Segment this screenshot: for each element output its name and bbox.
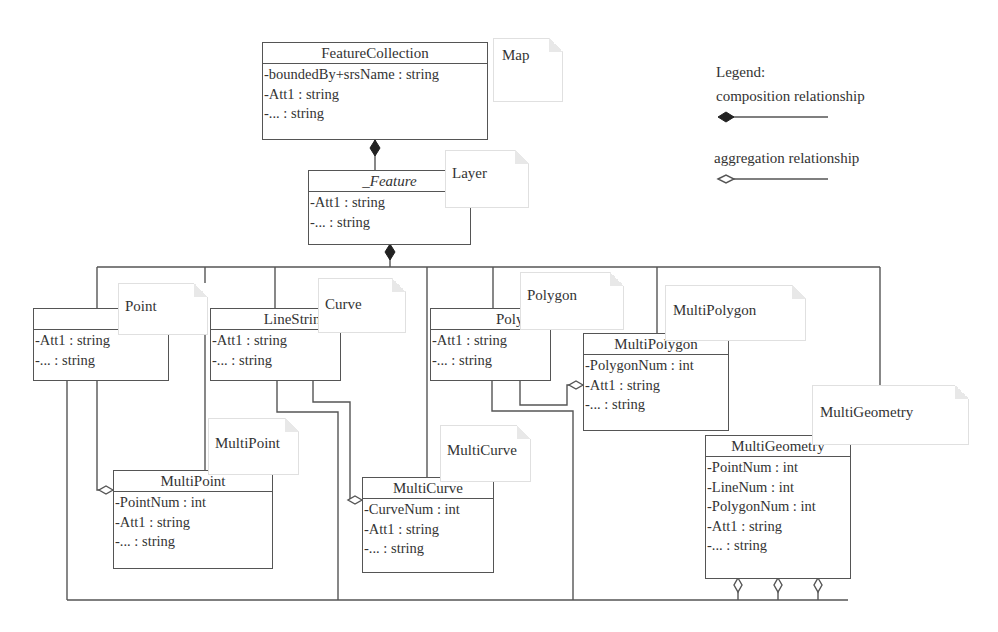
note-fold-icon [955, 385, 969, 399]
class-multicurve[interactable]: MultiCurve -CurveNum : int -Att1 : strin… [362, 477, 494, 573]
class-attribute: -... : string [212, 351, 340, 371]
class-attribute: -PolygonNum : int [585, 356, 728, 376]
note-text: MultiGeometry [820, 404, 913, 420]
class-attribute: -PointNum : int [707, 458, 850, 478]
class-multipolygon[interactable]: MultiPolygon -PolygonNum : int -Att1 : s… [583, 333, 729, 431]
class-attribute: -Att1 : string [115, 513, 272, 533]
note-text: Map [502, 47, 530, 63]
note-text: MultiPolygon [673, 302, 756, 318]
note-fold-icon [549, 38, 563, 52]
class-attribute: -... : string [432, 351, 550, 371]
note-multipolygon: MultiPolygon [665, 285, 806, 341]
note-layer: Layer [445, 150, 529, 208]
note-fold-icon [792, 285, 806, 299]
class-attribute: -boundedBy+srsName : string [264, 65, 487, 85]
note-fold-icon [515, 150, 529, 164]
class-attribute: -... : string [364, 539, 493, 559]
note-fold-icon [194, 283, 208, 297]
class-attribute: -Att1 : string [432, 331, 550, 351]
class-attribute: -Att1 : string [364, 520, 493, 540]
class-attribute: -... : string [310, 213, 470, 233]
note-multicurve: MultiCurve [440, 425, 531, 482]
class-attribute: -... : string [707, 536, 850, 556]
class-attribute: -... : string [585, 395, 728, 415]
note-text: Point [125, 298, 157, 314]
note-text: Polygon [527, 287, 577, 303]
note-polygon: Polygon [520, 272, 624, 330]
note-fold-icon [610, 272, 624, 286]
note-multigeometry: MultiGeometry [812, 385, 969, 445]
class-feature-collection[interactable]: FeatureCollection -boundedBy+srsName : s… [262, 42, 488, 140]
class-attribute: -PolygonNum : int [707, 497, 850, 517]
note-text: Layer [452, 165, 487, 181]
class-attribute: -Att1 : string [264, 85, 487, 105]
class-attribute: -Att1 : string [707, 517, 850, 537]
class-attribute: -... : string [115, 532, 272, 552]
class-attribute: -CurveNum : int [364, 500, 493, 520]
legend-aggregation-label: aggregation relationship [714, 150, 859, 167]
class-attribute: -... : string [35, 351, 168, 371]
class-attribute: -... : string [264, 104, 487, 124]
note-text: MultiCurve [447, 442, 517, 458]
note-multipoint: MultiPoint [208, 418, 299, 475]
class-multigeometry[interactable]: MultiGeometry -PointNum : int -LineNum :… [705, 435, 851, 579]
note-text: MultiPoint [215, 435, 280, 451]
note-point: Point [118, 283, 208, 335]
class-name: FeatureCollection [263, 43, 487, 64]
legend-title: Legend: [716, 64, 765, 81]
class-attribute: -Att1 : string [212, 331, 340, 351]
note-fold-icon [285, 418, 299, 432]
note-fold-icon [392, 278, 406, 292]
note-curve: Curve [318, 278, 406, 333]
legend-composition-label: composition relationship [716, 88, 865, 105]
note-fold-icon [517, 425, 531, 439]
note-text: Curve [325, 296, 362, 312]
class-attribute: -Att1 : string [585, 376, 728, 396]
class-attribute: -LineNum : int [707, 478, 850, 498]
class-multipoint[interactable]: MultiPoint -PointNum : int -Att1 : strin… [113, 470, 273, 569]
note-map: Map [493, 38, 563, 102]
class-attribute: -PointNum : int [115, 493, 272, 513]
